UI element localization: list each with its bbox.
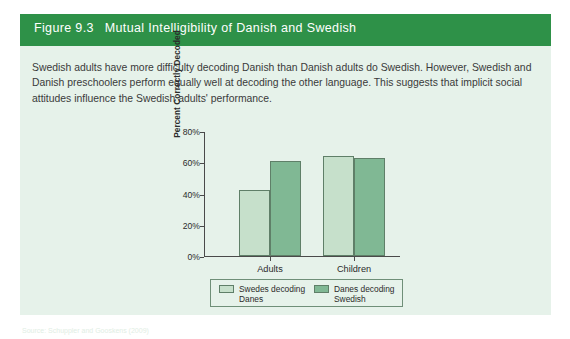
bar — [270, 161, 301, 256]
y-tick-label: 20% — [183, 221, 200, 231]
bar-chart: Percent Correctly Decoded 0%20%40%60%80%… — [162, 114, 422, 309]
y-tick-mark — [200, 226, 204, 227]
x-category-label: Adults — [257, 264, 283, 274]
figure-caption: Swedish adults have more difficulty deco… — [32, 60, 540, 106]
y-tick-mark — [200, 132, 204, 133]
y-tick-label: 40% — [183, 190, 200, 200]
y-tick-label: 80% — [183, 127, 200, 137]
legend-swatch — [219, 285, 234, 293]
figure-header-bar: Figure 9.3Mutual Intelligibility of Dani… — [20, 14, 551, 46]
x-tick-mark — [270, 257, 271, 261]
legend-label: Swedes decoding Danes — [239, 284, 305, 304]
legend-entry: Danes decoding Swedish — [314, 284, 395, 304]
y-tick-mark — [200, 257, 204, 258]
legend-entry: Swedes decoding Danes — [219, 284, 305, 304]
y-axis-title: Percent Correctly Decoded — [173, 24, 182, 144]
figure-panel: Figure 9.3Mutual Intelligibility of Dani… — [20, 14, 551, 315]
figure-source-note: Source: Schuppler and Gooskens (2009) — [22, 327, 149, 334]
x-tick-mark — [354, 257, 355, 261]
legend-swatch — [314, 285, 329, 293]
figure-title: Mutual Intelligibility of Danish and Swe… — [105, 21, 357, 35]
figure-number: Figure 9.3 — [34, 21, 94, 35]
bar — [354, 158, 385, 256]
x-axis-line — [204, 256, 400, 257]
y-tick-mark — [200, 195, 204, 196]
plot-area: 0%20%40%60%80% AdultsChildren — [204, 132, 400, 257]
chart-legend: Swedes decoding DanesDanes decoding Swed… — [210, 279, 403, 307]
figure-header-text: Figure 9.3Mutual Intelligibility of Dani… — [34, 21, 356, 35]
bar — [323, 156, 354, 256]
y-tick-mark — [200, 163, 204, 164]
x-category-label: Children — [337, 264, 371, 274]
bar — [239, 190, 270, 256]
legend-label: Danes decoding Swedish — [334, 284, 395, 304]
y-axis-line — [204, 132, 205, 257]
y-tick-label: 0% — [188, 252, 200, 262]
y-tick-label: 60% — [183, 158, 200, 168]
